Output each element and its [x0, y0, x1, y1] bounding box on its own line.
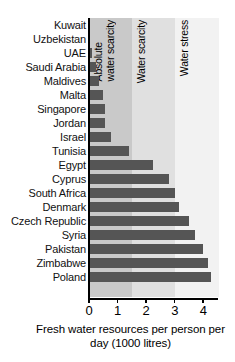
- bar-row: [89, 18, 235, 32]
- category-label: South Africa: [0, 186, 86, 200]
- category-label: Malta: [0, 88, 86, 102]
- x-axis-tick-label: 1: [106, 303, 130, 319]
- category-label: Cyprus: [0, 172, 86, 186]
- bars-layer: [89, 18, 235, 297]
- bar-row: [89, 32, 235, 46]
- category-label: Tunisia: [0, 144, 86, 158]
- bar-row: [89, 60, 235, 74]
- x-axis-tick-label: 0: [77, 303, 101, 319]
- category-label: Maldives: [0, 74, 86, 88]
- category-label: Singapore: [0, 102, 86, 116]
- x-axis-title: Fresh water resources per person per day…: [28, 322, 233, 350]
- category-label: UAE: [0, 46, 86, 60]
- bar: [89, 104, 105, 114]
- bar: [89, 188, 175, 198]
- category-label: Denmark: [0, 200, 86, 214]
- bar: [89, 230, 195, 240]
- x-axis-line: [88, 298, 218, 300]
- x-axis-tick-label: 3: [163, 303, 187, 319]
- bar: [89, 76, 99, 86]
- category-label: Egypt: [0, 158, 86, 172]
- category-label: Pakistan: [0, 242, 86, 256]
- bar-row: [89, 116, 235, 130]
- water-resources-bar-chart: Absolute water scarcityWater scarcityWat…: [0, 0, 235, 362]
- bar: [89, 146, 129, 156]
- bar-row: [89, 186, 235, 200]
- bar: [89, 202, 179, 212]
- category-label: Czech Republic: [0, 214, 86, 228]
- category-label: Syria: [0, 228, 86, 242]
- bar-row: [89, 130, 235, 144]
- bar-row: [89, 144, 235, 158]
- bar-row: [89, 102, 235, 116]
- bar: [89, 132, 111, 142]
- bar: [89, 90, 103, 100]
- bar-row: [89, 214, 235, 228]
- bar: [89, 118, 105, 128]
- bar: [89, 62, 96, 72]
- bar: [89, 272, 211, 282]
- bar-row: [89, 46, 235, 60]
- bar-row: [89, 158, 235, 172]
- y-axis-line: [88, 18, 90, 299]
- category-label: Uzbekistan: [0, 32, 86, 46]
- category-label: Poland: [0, 270, 86, 284]
- bar-row: [89, 256, 235, 270]
- bar-row: [89, 88, 235, 102]
- category-label: Israel: [0, 130, 86, 144]
- bar: [89, 216, 189, 226]
- category-label: Zimbabwe: [0, 256, 86, 270]
- bar-row: [89, 172, 235, 186]
- bar: [89, 244, 203, 254]
- x-axis-tick-label: 4: [191, 303, 215, 319]
- bar: [89, 174, 169, 184]
- category-label: Kuwait: [0, 18, 86, 32]
- bar-row: [89, 200, 235, 214]
- bar-row: [89, 74, 235, 88]
- bar-row: [89, 242, 235, 256]
- bar: [89, 258, 208, 268]
- category-label: Jordan: [0, 116, 86, 130]
- bar-row: [89, 228, 235, 242]
- bar-row: [89, 270, 235, 284]
- x-axis-tick-label: 2: [134, 303, 158, 319]
- bar: [89, 160, 153, 170]
- category-label: Saudi Arabia: [0, 60, 86, 74]
- category-axis-labels: KuwaitUzbekistanUAESaudi ArabiaMaldivesM…: [0, 18, 86, 297]
